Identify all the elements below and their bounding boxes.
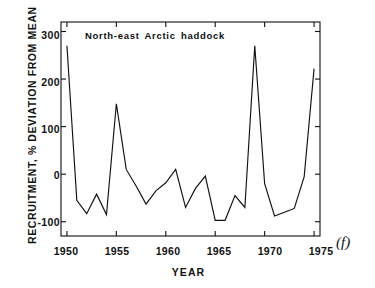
x-tick-label-1950: 1950 [44,245,88,257]
x-tick-label-1955: 1955 [95,245,139,257]
x-tick-label-1965: 1965 [197,245,241,257]
x-axis-tick-labels: 1950 1955 1960 1965 1970 1975 [0,0,375,288]
figure-panel: RECRUITMENT, % DEVIATION FROM MEAN 300 2… [0,0,375,288]
plot-annotation-label: North-east Arctic haddock [85,30,225,41]
x-axis-title: YEAR [56,266,321,278]
x-tick-label-1960: 1960 [146,245,190,257]
x-tick-label-1970: 1970 [248,245,292,257]
panel-letter-label: (f) [336,234,350,251]
